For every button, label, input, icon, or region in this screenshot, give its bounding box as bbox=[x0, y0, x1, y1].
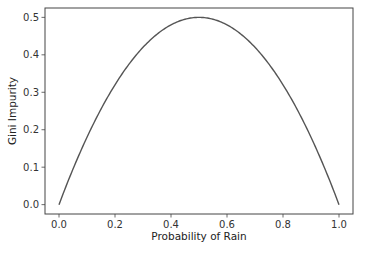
axes-frame bbox=[45, 8, 353, 214]
y-tick-label: 0.0 bbox=[23, 199, 39, 210]
x-axis-ticks: 0.00.20.40.60.81.0 bbox=[51, 214, 347, 230]
x-tick-label: 1.0 bbox=[331, 219, 347, 230]
y-tick-label: 0.3 bbox=[23, 87, 39, 98]
x-tick-label: 0.8 bbox=[275, 219, 291, 230]
x-tick-label: 0.4 bbox=[163, 219, 179, 230]
y-axis-ticks: 0.00.10.20.30.40.5 bbox=[23, 12, 45, 210]
x-tick-label: 0.0 bbox=[51, 219, 67, 230]
plot-area bbox=[45, 8, 353, 214]
gini-impurity-chart: 0.00.20.40.60.81.0 0.00.10.20.30.40.5 Pr… bbox=[0, 0, 365, 253]
x-tick-label: 0.2 bbox=[107, 219, 123, 230]
y-tick-label: 0.2 bbox=[23, 124, 39, 135]
y-tick-label: 0.4 bbox=[23, 49, 39, 60]
x-tick-label: 0.6 bbox=[219, 219, 235, 230]
x-axis-label: Probability of Rain bbox=[151, 230, 246, 242]
y-axis-label: Gini Impurity bbox=[6, 77, 18, 145]
y-tick-label: 0.5 bbox=[23, 12, 39, 23]
y-tick-label: 0.1 bbox=[23, 162, 39, 173]
